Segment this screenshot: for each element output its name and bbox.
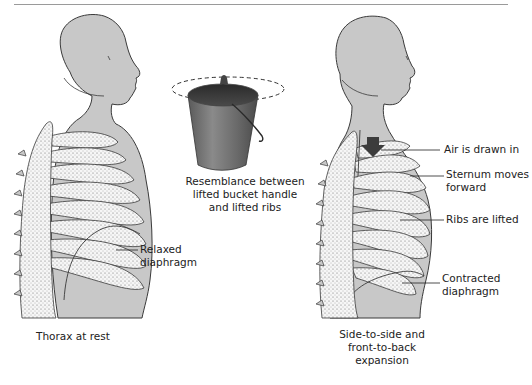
- bucket-caption-line3: and lifted ribs: [166, 201, 324, 214]
- relaxed-diaphragm-line2: diaphragm: [140, 256, 197, 269]
- contracted-diaphragm-label: Contracted diaphragm: [442, 272, 500, 297]
- thorax-at-rest-caption: Thorax at rest: [36, 330, 110, 343]
- bucket-caption-line1: Resemblance between: [166, 175, 324, 188]
- right-spine: [320, 131, 358, 318]
- sternum-line1: Sternum moves: [446, 168, 529, 181]
- bucket-caption-line2: lifted bucket handle: [166, 188, 324, 201]
- relaxed-diaphragm-label: Relaxed diaphragm: [140, 243, 197, 268]
- contracted-diaphragm-line2: diaphragm: [442, 285, 500, 298]
- sternum-label: Sternum moves forward: [446, 168, 529, 193]
- expansion-caption: Side-to-side and front-to-back expansion: [322, 328, 442, 367]
- bucket-caption: Resemblance between lifted bucket handle…: [166, 175, 324, 214]
- ribs-lifted-label: Ribs are lifted: [446, 213, 519, 226]
- bucket-illustration: [172, 75, 284, 170]
- left-spine: [20, 122, 56, 318]
- sternum-line2: forward: [446, 181, 529, 194]
- expansion-caption-line1: Side-to-side and: [322, 328, 442, 341]
- right-torso-figure: [316, 16, 444, 318]
- left-torso-figure: [14, 15, 152, 319]
- expansion-caption-line2: front-to-back: [322, 341, 442, 354]
- contracted-diaphragm-line1: Contracted: [442, 272, 500, 285]
- air-drawn-in-label: Air is drawn in: [444, 143, 519, 156]
- expansion-caption-line3: expansion: [322, 354, 442, 367]
- relaxed-diaphragm-line1: Relaxed: [140, 243, 197, 256]
